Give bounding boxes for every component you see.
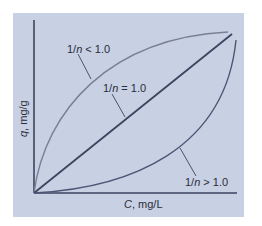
annotation-n-equal: 1/n = 1.0 [103,82,146,94]
y-axis-label: q, mg/g [17,100,29,137]
annotation-n-less: 1/n < 1.0 [67,43,110,55]
isotherm-chart: 1/n < 1.0 1/n = 1.0 1/n > 1.0 C, mg/L q,… [0,0,262,226]
leader-line-n-greater [180,148,196,176]
annotation-n-greater: 1/n > 1.0 [185,176,228,188]
x-axis-label: C, mg/L [124,198,163,210]
leader-line-n-equal [112,94,125,117]
curve-n-greater-than-1 [34,40,236,193]
leader-line-n-less [78,54,91,79]
